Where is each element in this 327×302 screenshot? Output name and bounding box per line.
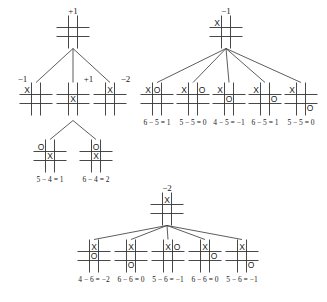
- root-value: −1: [221, 6, 231, 16]
- tree-edge: [157, 49, 226, 83]
- x-mark: X: [128, 242, 134, 252]
- root-value: +1: [68, 6, 78, 16]
- grandchild-board: OX: [34, 140, 67, 173]
- o-mark: O: [271, 94, 278, 104]
- child-board: XO: [78, 240, 111, 273]
- x-mark: X: [253, 85, 259, 95]
- child-board: XO: [141, 83, 174, 116]
- root-board: [57, 16, 90, 49]
- x-mark: X: [70, 94, 76, 104]
- child-board: XO: [213, 83, 246, 116]
- o-mark: O: [199, 85, 206, 95]
- x-mark: X: [145, 85, 151, 95]
- evaluation-label: 5 − 6 = −1: [226, 275, 258, 284]
- child-board: X: [20, 83, 53, 116]
- tree-edge: [226, 49, 301, 83]
- tree-edge: [131, 226, 167, 240]
- evaluation-label: 4 − 5 = −1: [213, 118, 245, 127]
- tree-edge: [167, 226, 168, 240]
- tree-edge: [167, 226, 242, 240]
- evaluation-label: 5 − 4 = 1: [36, 175, 63, 184]
- child-board: XO: [226, 240, 259, 273]
- evaluation-label: 5 − 5 = 0: [179, 118, 206, 127]
- tree-edge: [167, 226, 205, 240]
- x-mark: X: [217, 85, 223, 95]
- x-mark: X: [239, 242, 245, 252]
- tree-edge: [226, 49, 265, 83]
- o-mark: O: [154, 85, 161, 95]
- root-value: −2: [162, 183, 172, 193]
- root-board: X: [210, 16, 243, 49]
- root-board: X: [151, 193, 184, 226]
- tree-edge: [73, 121, 96, 140]
- x-mark: X: [93, 151, 99, 161]
- evaluation-label: 6 − 5 = 1: [251, 118, 278, 127]
- evaluation-label: 6 − 5 = 1: [143, 118, 170, 127]
- x-mark: X: [214, 18, 220, 28]
- tree-edge: [36, 49, 73, 83]
- x-mark: X: [24, 85, 30, 95]
- child-value: −1: [18, 74, 28, 84]
- evaluation-label: 6 − 6 = 0: [117, 275, 144, 284]
- o-mark: O: [248, 260, 255, 270]
- o-mark: O: [174, 242, 181, 252]
- o-mark: O: [226, 94, 233, 104]
- x-mark: X: [164, 195, 170, 205]
- tree-edge: [94, 226, 167, 240]
- x-mark: X: [181, 85, 187, 95]
- game-tree-diagram: +1X−1X+1X−2OX5 − 4 = 1OX6 − 4 = 2X−1XO6 …: [0, 0, 327, 302]
- x-mark: X: [289, 85, 295, 95]
- grandchild-board: OX: [80, 140, 113, 173]
- o-mark: O: [38, 142, 45, 152]
- tree-edge: [193, 49, 226, 83]
- o-mark: O: [91, 251, 98, 261]
- child-board: X: [57, 83, 90, 116]
- child-value: +1: [84, 74, 94, 84]
- child-board: XO: [249, 83, 282, 116]
- child-value: −2: [121, 74, 131, 84]
- evaluation-label: 5 − 5 = 0: [287, 118, 314, 127]
- child-board: XO: [177, 83, 210, 116]
- o-mark: O: [307, 103, 314, 113]
- x-mark: X: [165, 242, 171, 252]
- evaluation-label: 6 − 6 = 0: [191, 275, 218, 284]
- evaluation-label: 6 − 4 = 2: [82, 175, 109, 184]
- x-mark: X: [202, 242, 208, 252]
- o-mark: O: [211, 251, 218, 261]
- tree-edge: [50, 121, 73, 140]
- x-mark: X: [47, 151, 53, 161]
- evaluation-label: 4 − 6 = −2: [78, 275, 110, 284]
- tree-edge: [226, 49, 229, 83]
- o-mark: O: [128, 260, 135, 270]
- evaluation-label: 5 − 6 = −1: [152, 275, 184, 284]
- child-board: XO: [189, 240, 222, 273]
- child-board: XO: [152, 240, 185, 273]
- child-board: X: [94, 83, 127, 116]
- child-board: XO: [285, 83, 318, 116]
- child-board: XO: [115, 240, 148, 273]
- x-mark: X: [107, 85, 113, 95]
